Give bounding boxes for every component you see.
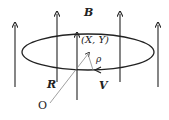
origin-label: O [38, 100, 47, 111]
field-label-b: B [84, 7, 93, 18]
position-vector-label: R [47, 79, 56, 90]
guiding-center-label: (X, Y) [81, 35, 109, 45]
magnetic-field-arrows [15, 14, 158, 100]
gyroradius-line [88, 54, 93, 70]
gyroradius-label: ρ [96, 55, 101, 64]
velocity-label: V [99, 80, 108, 91]
